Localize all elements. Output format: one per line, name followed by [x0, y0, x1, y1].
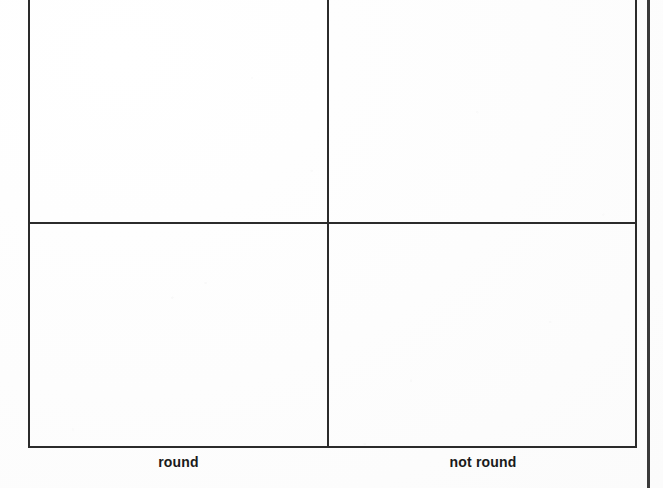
classification-matrix: [28, 0, 637, 448]
column-caption-round: round: [28, 454, 329, 470]
matrix-cell-row1-col1[interactable]: [329, 224, 635, 446]
grid-row-divider: [28, 222, 637, 224]
matrix-cell-row1-col0[interactable]: [30, 224, 327, 446]
matrix-cell-row0-col1[interactable]: [329, 0, 635, 222]
page-edge-line: [647, 0, 650, 488]
grid-border-right: [635, 0, 637, 448]
matrix-cell-row0-col0[interactable]: [30, 0, 327, 222]
grid-border-left: [28, 0, 30, 448]
row-label-fragment: e: [0, 60, 8, 86]
scanned-worksheet-page: e round not round: [0, 0, 663, 488]
grid-column-divider: [327, 0, 329, 448]
grid-border-bottom: [28, 446, 637, 448]
column-caption-not-round: not round: [329, 454, 637, 470]
